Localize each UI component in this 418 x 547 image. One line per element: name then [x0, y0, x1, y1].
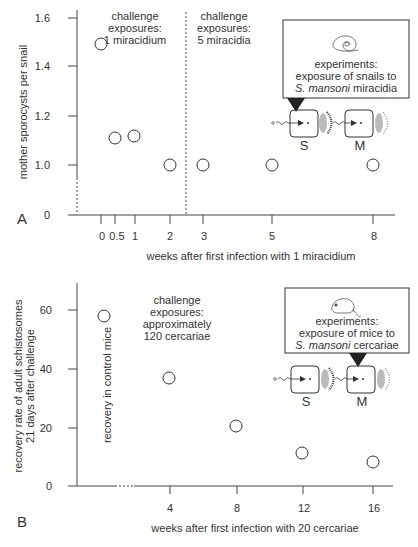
figure: 1.6 1.4 1.2 1.0 0 0 0.5 1 2 3 5 8 weeks …: [0, 0, 418, 547]
schematic-s-m-a: S M: [272, 110, 388, 153]
svg-text:challenge: challenge: [111, 10, 158, 22]
panel-a: 1.6 1.4 1.2 1.0 0 0 0.5 1 2 3 5 8 weeks …: [17, 10, 409, 262]
data-point: [230, 420, 242, 432]
svg-text:exposure of mice to: exposure of mice to: [299, 327, 395, 339]
note-challenge-120-cercariae: challenge exposures: approximately 120 c…: [143, 294, 212, 342]
x-tick-label: 5: [269, 230, 275, 242]
y-tick-label: 1.2: [35, 110, 50, 122]
stage-label-s: S: [302, 394, 311, 409]
data-point: [109, 132, 121, 144]
inset-snail-experiment: experiments: exposure of snails to S. ma…: [283, 20, 409, 112]
data-point: [163, 372, 175, 384]
svg-text:approximately: approximately: [143, 318, 212, 330]
x-tick-label: 1: [132, 230, 138, 242]
svg-text:recovery rate of adult schisto: recovery rate of adult schistosomes: [12, 299, 24, 473]
svg-text:exposure of snails to: exposure of snails to: [296, 70, 397, 82]
data-point-control: [98, 310, 110, 322]
y-tick-label: 1.4: [35, 60, 50, 72]
note-challenge-1-miracidium: challenge exposures: 1 miracidium: [104, 10, 166, 46]
stage-label-m: M: [357, 394, 368, 409]
pointer-triangle: [349, 353, 367, 367]
y-tick-label: 20: [40, 422, 52, 434]
panel-label-a: A: [17, 210, 27, 227]
stage-label-m: M: [355, 138, 366, 153]
y-tick-label: 1.0: [35, 159, 50, 171]
x-tick-label: 12: [298, 502, 310, 514]
note-challenge-5-miracidia: challenge exposures: 5 miracidia: [197, 10, 251, 46]
y-tick-label: 0: [44, 209, 50, 221]
control-mice-label: recovery in control mice: [101, 327, 113, 443]
x-tick-label: 16: [368, 502, 380, 514]
svg-text:1 miracidium: 1 miracidium: [104, 34, 166, 46]
data-point: [367, 159, 379, 171]
svg-text:exposures:: exposures:: [108, 22, 162, 34]
svg-text:exposures:: exposures:: [197, 22, 251, 34]
y-tick-label: 0: [46, 480, 52, 492]
y-axis-label-b: recovery rate of adult schistosomes 21 d…: [12, 299, 36, 473]
x-axis-label-b: weeks after first infection with 20 cerc…: [150, 522, 358, 534]
x-tick-label: 3: [201, 230, 207, 242]
x-tick-label: 8: [371, 230, 377, 242]
data-point: [197, 159, 209, 171]
y-axis-label-a: mother sporocysts per snail: [17, 45, 29, 180]
svg-text:5 miracidia: 5 miracidia: [197, 34, 251, 46]
data-point: [128, 130, 140, 142]
y-tick-label: 40: [40, 363, 52, 375]
data-point: [95, 38, 107, 50]
svg-text:challenge: challenge: [200, 10, 247, 22]
svg-text:exposures:: exposures:: [150, 306, 204, 318]
svg-text:challenge: challenge: [153, 294, 200, 306]
x-axis-label-a: weeks after first infection with 1 mirac…: [145, 250, 355, 262]
panel-label-b: B: [17, 513, 27, 530]
data-point: [266, 159, 278, 171]
svg-text:S. mansoni miracidia: S. mansoni miracidia: [295, 82, 398, 94]
svg-text:120 cercariae: 120 cercariae: [144, 330, 211, 342]
svg-text:experiments:: experiments:: [316, 315, 379, 327]
data-point: [164, 159, 176, 171]
stage-label-s: S: [300, 138, 309, 153]
x-tick-label: 4: [167, 502, 173, 514]
svg-text:experiments:: experiments:: [315, 58, 378, 70]
schematic-s-m-b: S M: [274, 366, 390, 409]
inset-mouse-experiment: experiments: exposure of mice to S. mans…: [285, 288, 409, 367]
data-point: [296, 447, 308, 459]
data-point: [367, 456, 379, 468]
svg-text:21 days after challenge: 21 days after challenge: [24, 329, 36, 443]
y-tick-label: 60: [40, 304, 52, 316]
panel-b: 60 40 20 0 4 8 12 16 weeks after first i…: [12, 283, 409, 534]
svg-text:S. mansoni cercariae: S. mansoni cercariae: [295, 339, 398, 351]
x-tick-label: 8: [234, 502, 240, 514]
x-tick-label: 0.5: [109, 230, 124, 242]
y-tick-label: 1.6: [35, 12, 50, 24]
x-tick-label: 2: [167, 230, 173, 242]
x-tick-label: 0: [99, 230, 105, 242]
